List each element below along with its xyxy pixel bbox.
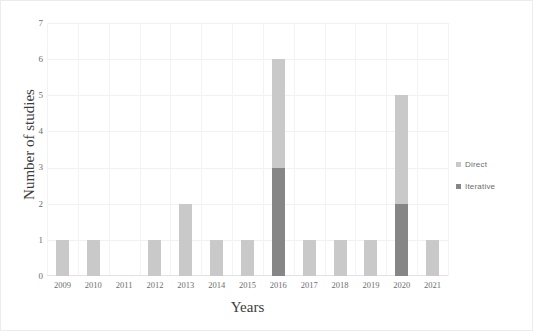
bar-2015[interactable] — [241, 240, 254, 276]
x-tick-2012: 2012 — [138, 281, 172, 290]
plot-area — [47, 23, 448, 276]
x-axis-tick-labels: 2009201020112012201320142015201620172018… — [47, 281, 448, 295]
bar-segment-direct-2019[interactable] — [364, 240, 377, 276]
bar-segment-direct-2014[interactable] — [210, 240, 223, 276]
bar-2018[interactable] — [334, 240, 347, 276]
gridline-x-13 — [448, 23, 449, 276]
bar-2021[interactable] — [426, 240, 439, 276]
bar-2016[interactable] — [272, 59, 285, 276]
square-swatch-icon — [456, 162, 461, 167]
bar-segment-direct-2010[interactable] — [87, 240, 100, 276]
bar-2019[interactable] — [364, 240, 377, 276]
x-tick-2013: 2013 — [169, 281, 203, 290]
bar-segment-iterative-2016[interactable] — [272, 168, 285, 276]
bar-segment-direct-2020[interactable] — [395, 95, 408, 203]
bars-layer — [47, 23, 448, 276]
bar-2017[interactable] — [303, 240, 316, 276]
bar-segment-direct-2009[interactable] — [56, 240, 69, 276]
x-tick-2011: 2011 — [107, 281, 141, 290]
legend-label-direct: Direct — [465, 160, 487, 169]
bar-segment-direct-2021[interactable] — [426, 240, 439, 276]
bar-2010[interactable] — [87, 240, 100, 276]
legend-item-direct[interactable]: Direct — [456, 159, 528, 169]
bar-2009[interactable] — [56, 240, 69, 276]
x-tick-2017: 2017 — [292, 281, 326, 290]
x-axis-title: Years — [47, 299, 448, 316]
bar-chart-figure: 7 6 5 4 3 2 1 0 200920102011201220132014… — [0, 0, 533, 331]
x-tick-2010: 2010 — [76, 281, 110, 290]
x-tick-2014: 2014 — [200, 281, 234, 290]
legend-item-iterative[interactable]: Iterative — [456, 181, 528, 191]
x-tick-2018: 2018 — [323, 281, 357, 290]
y-axis-title: Number of studies — [21, 65, 38, 225]
y-tick-6: 6 — [9, 55, 43, 64]
bar-2012[interactable] — [148, 240, 161, 276]
bar-2020[interactable] — [395, 95, 408, 276]
bar-segment-direct-2013[interactable] — [179, 204, 192, 276]
x-tick-2020: 2020 — [385, 281, 419, 290]
bar-2014[interactable] — [210, 240, 223, 276]
x-tick-2021: 2021 — [416, 281, 450, 290]
bar-segment-direct-2012[interactable] — [148, 240, 161, 276]
y-tick-7: 7 — [9, 19, 43, 28]
x-tick-2016: 2016 — [261, 281, 295, 290]
bar-segment-direct-2017[interactable] — [303, 240, 316, 276]
legend-label-iterative: Iterative — [465, 182, 495, 191]
bar-2013[interactable] — [179, 204, 192, 276]
y-tick-1: 1 — [9, 236, 43, 245]
bar-segment-iterative-2020[interactable] — [395, 204, 408, 276]
x-tick-2009: 2009 — [45, 281, 79, 290]
x-tick-2019: 2019 — [354, 281, 388, 290]
bar-segment-direct-2018[interactable] — [334, 240, 347, 276]
x-tick-2015: 2015 — [231, 281, 265, 290]
bar-segment-direct-2016[interactable] — [272, 59, 285, 167]
y-tick-0: 0 — [9, 272, 43, 281]
square-swatch-icon — [456, 184, 461, 189]
bar-segment-direct-2015[interactable] — [241, 240, 254, 276]
chart-legend: DirectIterative — [456, 159, 528, 203]
